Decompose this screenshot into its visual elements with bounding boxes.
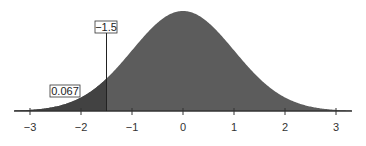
x-tick-label: 2 <box>282 121 288 133</box>
cutoff-label-text: −1.5 <box>95 21 117 33</box>
x-tick-label: 1 <box>231 121 237 133</box>
x-tick-label: 3 <box>333 121 339 133</box>
x-tick-label: −2 <box>75 121 88 133</box>
tail-area-label: 0.067 <box>50 85 80 97</box>
tail-area-label-text: 0.067 <box>51 85 79 97</box>
normal-distribution-chart: −3−2−10123 −1.5 0.067 <box>0 0 366 146</box>
x-tick-label: −3 <box>24 121 37 133</box>
x-axis-tick-labels: −3−2−10123 <box>24 121 339 133</box>
cutoff-label: −1.5 <box>95 21 117 33</box>
x-tick-label: 0 <box>180 121 186 133</box>
x-tick-label: −1 <box>126 121 139 133</box>
